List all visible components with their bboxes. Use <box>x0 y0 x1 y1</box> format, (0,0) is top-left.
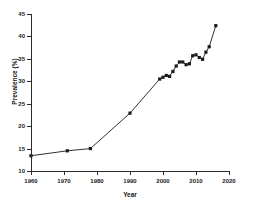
y-tick-15 <box>27 149 31 150</box>
x-tick-1960 <box>31 171 32 175</box>
data-point <box>181 60 184 63</box>
data-point <box>165 74 168 77</box>
y-axis-title: Prevalence (%) <box>11 32 18 132</box>
chart-figure: 1015202530354045 19601970198019902000201… <box>0 0 266 204</box>
data-line <box>31 26 216 156</box>
y-tick-25 <box>27 104 31 105</box>
data-point <box>198 56 201 59</box>
x-axis-title: Year <box>80 191 180 198</box>
x-tick-2020 <box>229 171 230 175</box>
data-point <box>175 64 178 67</box>
x-tick-1980 <box>97 171 98 175</box>
y-tick-35 <box>27 59 31 60</box>
data-point <box>66 149 69 152</box>
x-tick-2000 <box>163 171 164 175</box>
y-tick-20 <box>27 126 31 127</box>
x-tick-1970 <box>64 171 65 175</box>
data-point <box>185 63 188 66</box>
data-point <box>191 54 194 57</box>
data-point <box>178 60 181 63</box>
x-tick-2010 <box>196 171 197 175</box>
data-point <box>161 76 164 79</box>
data-point <box>208 45 211 48</box>
data-point <box>89 147 92 150</box>
data-markers <box>29 24 217 157</box>
data-point <box>204 51 207 54</box>
y-tick-label-10: 10 <box>0 168 25 174</box>
y-axis-line <box>31 14 32 171</box>
data-point <box>171 70 174 73</box>
data-point <box>128 112 131 115</box>
x-tick-label-2020: 2020 <box>209 178 249 184</box>
y-tick-40 <box>27 36 31 37</box>
data-point <box>158 77 161 80</box>
data-point <box>201 58 204 61</box>
line-plot <box>0 0 266 204</box>
y-tick-label-15: 15 <box>0 146 25 152</box>
y-tick-45 <box>27 14 31 15</box>
data-point <box>194 53 197 56</box>
data-point <box>214 24 217 27</box>
y-tick-label-45: 45 <box>0 11 25 17</box>
data-point <box>168 75 171 78</box>
x-tick-1990 <box>130 171 131 175</box>
data-point <box>188 62 191 65</box>
y-tick-30 <box>27 81 31 82</box>
